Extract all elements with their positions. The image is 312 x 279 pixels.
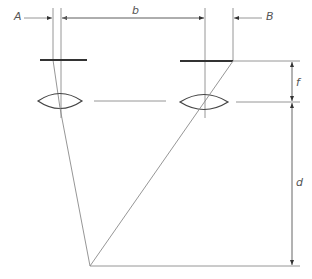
label-f: f (296, 76, 302, 89)
label-A: A (13, 10, 22, 23)
rays (60, 61, 233, 266)
right-axis-lines (205, 8, 233, 118)
left-axis-lines (53, 8, 61, 118)
stereo-lens-diagram: A b B f d (0, 0, 312, 279)
label-d: d (296, 176, 304, 189)
lens-plane-line (94, 101, 300, 102)
label-b: b (132, 4, 139, 17)
label-B: B (266, 10, 274, 23)
